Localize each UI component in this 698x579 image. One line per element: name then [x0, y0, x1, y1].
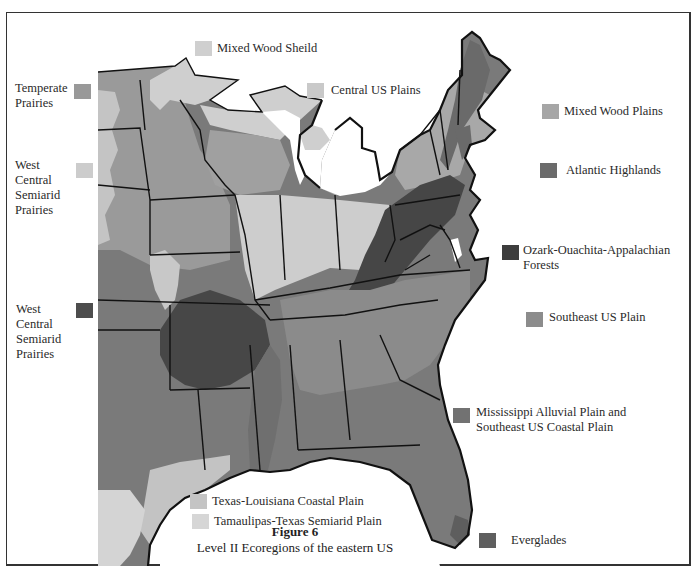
swatch-west-central-semiarid-dark	[76, 303, 93, 318]
swatch-mixed-wood-plains	[542, 104, 559, 119]
legend-mixed-wood-shield: Mixed Wood Sheild	[195, 41, 317, 56]
legend-texas-louisiana-coastal-plain: Texas-Louisiana Coastal Plain	[190, 494, 364, 509]
swatch-central-us-plains	[307, 83, 324, 98]
swatch-atlantic-highlands	[540, 163, 557, 178]
legend-temperate-prairies: Temperate Prairies	[15, 81, 91, 111]
legend-label: Central US Plains	[331, 83, 421, 98]
legend-label: West Central Semiarid Prairies	[16, 302, 61, 362]
legend-label: Texas-Louisiana Coastal Plain	[212, 494, 364, 509]
swatch-mississippi-alluvial	[453, 408, 470, 423]
legend-central-us-plains: Central US Plains	[307, 83, 421, 98]
figure-subtitle: Level II Ecoregions of the eastern US	[160, 540, 430, 556]
legend-label: Everglades	[511, 533, 566, 548]
legend-southeast-us-plain: Southeast US Plain	[526, 310, 646, 327]
legend-atlantic-highlands: Atlantic Highlands	[540, 163, 661, 178]
legend-label: West Central Semiarid Prairies	[15, 158, 60, 218]
swatch-southeast-us-plain	[526, 312, 543, 327]
swatch-west-central-semiarid-light	[76, 163, 93, 178]
swatch-everglades	[479, 533, 496, 548]
legend-everglades: Everglades	[479, 533, 566, 548]
legend-mixed-wood-plains: Mixed Wood Plains	[542, 104, 663, 119]
legend-west-central-semiarid-prairies-dark: West Central Semiarid Prairies	[16, 302, 93, 362]
swatch-temperate-prairies	[74, 84, 91, 99]
figure-title: Figure 6	[160, 524, 430, 540]
legend-mississippi-alluvial-southeast-coastal-plain: Mississippi Alluvial Plain and Southeast…	[453, 405, 626, 435]
legend-label: Ozark-Ouachita-Appalachian Forests	[523, 243, 670, 273]
legend-west-central-semiarid-prairies-light: West Central Semiarid Prairies	[15, 158, 93, 218]
swatch-mixed-wood-shield	[195, 41, 212, 56]
legend-label: Temperate Prairies	[15, 81, 68, 111]
legend-label: Mixed Wood Sheild	[217, 41, 317, 56]
legend-label: Atlantic Highlands	[566, 163, 661, 178]
swatch-texas-louisiana	[190, 494, 207, 509]
swatch-ozark-ouachita-appalachian	[502, 245, 519, 260]
legend-ozark-ouachita-appalachian-forests: Ozark-Ouachita-Appalachian Forests	[502, 243, 670, 273]
legend-label: Mixed Wood Plains	[564, 104, 663, 119]
legend-label: Mississippi Alluvial Plain and Southeast…	[476, 405, 626, 435]
legend-label: Southeast US Plain	[549, 310, 646, 325]
